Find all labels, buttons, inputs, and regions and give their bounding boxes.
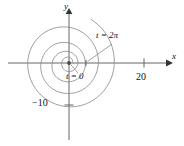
- y-axis-label: y: [64, 2, 68, 11]
- x-axis-label: x: [172, 52, 176, 61]
- t-two-pi-leader-line: [88, 44, 113, 62]
- x-tick-label-20: 20: [136, 72, 146, 82]
- annotation-t-zero: t = 0: [66, 72, 84, 81]
- annotation-t-two-pi: t = 2π: [96, 31, 118, 40]
- plot-canvas: [0, 0, 184, 146]
- y-tick-label-minus-10: −10: [32, 98, 48, 108]
- spiral-figure: y x 20 −10 t = 2π t = 0: [0, 0, 184, 146]
- origin-point-marker: [67, 61, 71, 65]
